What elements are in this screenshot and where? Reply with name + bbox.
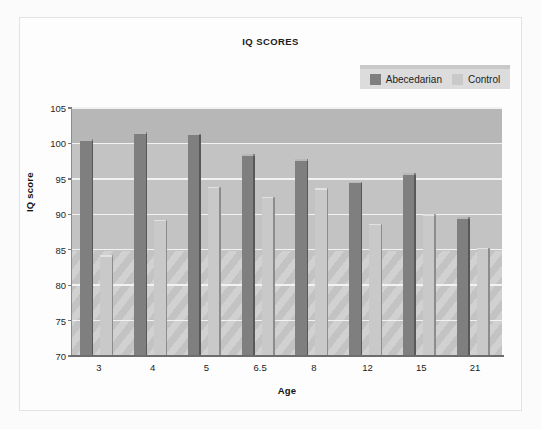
y-axis-title: IQ score <box>24 172 35 212</box>
y-axis-tick-label: 80 <box>36 280 66 291</box>
bar-right-shadow <box>327 188 329 356</box>
bar-abecedarian-12 <box>349 182 362 356</box>
bar-right-shadow <box>112 255 114 356</box>
legend-entry-abecedarian: Abecedarian <box>370 74 442 85</box>
bar-abecedarian-3 <box>80 139 93 356</box>
chart-legend: Abecedarian Control <box>360 65 510 89</box>
x-axis-tick-label: 5 <box>204 362 209 373</box>
bar-right-shadow <box>166 220 168 356</box>
bar-control-8 <box>315 188 328 356</box>
bar-control-12 <box>369 224 382 357</box>
x-axis-tick-label: 15 <box>416 362 427 373</box>
y-axis-line <box>71 108 72 357</box>
bar-right-shadow <box>273 197 275 356</box>
y-axis-tick-label: 100 <box>36 138 66 149</box>
bar-right-shadow <box>146 132 148 356</box>
x-axis-title: Age <box>72 385 502 396</box>
bar-right-shadow <box>468 217 470 356</box>
bar-abecedarian-15 <box>403 173 416 356</box>
bar-control-5 <box>208 187 221 356</box>
bar-right-shadow <box>219 187 221 356</box>
x-axis-tick-label: 3 <box>96 362 101 373</box>
bar-right-shadow <box>381 224 383 357</box>
bar-control-21 <box>477 248 490 356</box>
legend-label-control: Control <box>468 74 500 85</box>
bar-right-shadow <box>92 139 94 356</box>
bar-right-shadow <box>361 182 363 356</box>
x-axis-tick-label: 21 <box>470 362 481 373</box>
y-axis-tick-label: 105 <box>36 103 66 114</box>
bar-control-6.5 <box>262 197 275 356</box>
x-axis-tick-label: 4 <box>150 362 155 373</box>
bar-abecedarian-21 <box>457 217 470 356</box>
bar-abecedarian-4 <box>134 132 147 356</box>
bar-control-3 <box>100 255 113 356</box>
y-axis-tick-label: 85 <box>36 244 66 255</box>
legend-entry-control: Control <box>452 74 500 85</box>
legend-label-abecedarian: Abecedarian <box>386 74 442 85</box>
plot-area: 707580859095100105 <box>72 108 502 356</box>
y-axis-tick-label: 70 <box>36 351 66 362</box>
y-axis-tick-label: 95 <box>36 173 66 184</box>
legend-swatch-control <box>452 74 463 85</box>
legend-swatch-abecedarian <box>370 74 381 85</box>
page-title: IQ SCORES <box>0 36 541 47</box>
x-axis-tick-label: 8 <box>311 362 316 373</box>
bar-control-4 <box>154 220 167 356</box>
y-axis-tick-label: 75 <box>36 315 66 326</box>
chart-page: IQ SCORES Abecedarian Control IQ score 7… <box>0 0 541 429</box>
bar-control-15 <box>423 214 436 356</box>
bar-right-shadow <box>253 154 255 356</box>
bar-abecedarian-6.5 <box>242 154 255 356</box>
bar-right-shadow <box>488 248 490 356</box>
bar-abecedarian-5 <box>188 134 201 356</box>
x-axis-line <box>70 355 504 357</box>
bar-right-shadow <box>434 214 436 356</box>
y-axis-tick-label: 90 <box>36 209 66 220</box>
x-axis-tick-label: 12 <box>362 362 373 373</box>
bar-abecedarian-8 <box>295 159 308 356</box>
x-axis-tick-label: 6.5 <box>254 362 267 373</box>
bar-right-shadow <box>307 159 309 356</box>
bar-right-shadow <box>199 134 201 356</box>
bar-right-shadow <box>414 173 416 356</box>
